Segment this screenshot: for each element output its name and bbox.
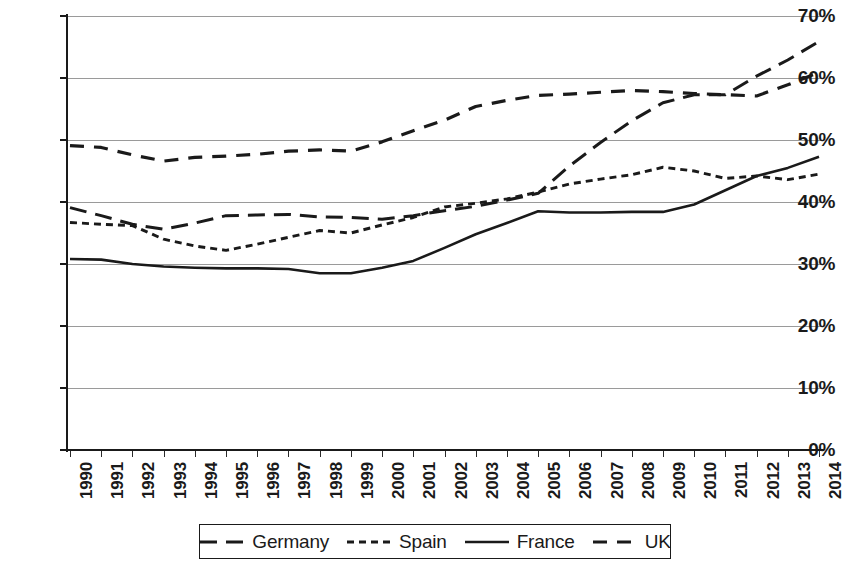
series-line-uk — [70, 72, 819, 161]
x-axis-tick-label: 1993 — [171, 462, 191, 499]
x-axis-tick-mark — [413, 451, 414, 457]
x-axis-tick-label: 2012 — [764, 462, 784, 499]
x-axis-tick-label: 2002 — [452, 462, 472, 499]
y-axis-tick-mark — [60, 325, 67, 327]
legend-label: Spain — [399, 531, 447, 553]
x-axis-tick-mark — [757, 451, 758, 457]
legend-swatch-icon — [464, 536, 510, 548]
y-axis-tick-mark — [60, 139, 67, 141]
x-axis-tick-label: 2009 — [670, 462, 690, 499]
x-axis-tick-label: 2010 — [701, 462, 721, 499]
x-axis-tick-mark — [663, 451, 664, 457]
x-axis-tick-mark — [632, 451, 633, 457]
x-axis-tick-mark — [320, 451, 321, 457]
legend-item-france[interactable]: France — [464, 531, 575, 553]
x-axis-tick-label: 2011 — [732, 462, 752, 498]
series-line-spain — [70, 167, 819, 250]
x-axis-tick-mark — [445, 451, 446, 457]
y-axis-tick-mark — [60, 387, 67, 389]
x-axis-tick-mark — [601, 451, 602, 457]
legend-item-germany[interactable]: Germany — [199, 531, 329, 553]
series-lines — [66, 16, 823, 450]
y-axis-tick-mark — [60, 77, 67, 79]
y-axis-tick-mark — [60, 201, 67, 203]
y-axis-tick-label: 50% — [777, 129, 835, 151]
x-axis-tick-label: 1997 — [295, 462, 315, 499]
x-axis-tick-label: 1996 — [264, 462, 284, 499]
legend-label: France — [517, 531, 575, 553]
legend-item-uk[interactable]: UK — [592, 531, 671, 553]
x-axis-tick-mark — [538, 451, 539, 457]
y-axis-tick-label: 60% — [777, 67, 835, 89]
x-axis-tick-mark — [507, 451, 508, 457]
x-axis-tick-label: 1991 — [108, 462, 128, 499]
y-axis-tick-label: 20% — [777, 315, 835, 337]
legend-item-spain[interactable]: Spain — [346, 531, 447, 553]
legend-swatch-icon — [199, 536, 245, 548]
legend-swatch-icon — [592, 536, 638, 548]
x-axis-tick-label: 1995 — [233, 462, 253, 499]
x-axis-tick-label: 2005 — [545, 462, 565, 499]
x-axis-tick-mark — [351, 451, 352, 457]
y-axis-tick-label: 70% — [777, 5, 835, 27]
x-axis-tick-label: 1990 — [77, 462, 97, 499]
legend-swatch-icon — [346, 536, 392, 548]
x-axis-tick-label: 2014 — [826, 462, 846, 499]
x-axis-tick-label: 2006 — [576, 462, 596, 499]
x-axis-tick-label: 2001 — [420, 462, 440, 499]
x-axis-tick-label: 2000 — [389, 462, 409, 499]
x-axis-tick-label: 1999 — [358, 462, 378, 499]
x-axis-tick-mark — [788, 451, 789, 457]
x-axis-tick-label: 2008 — [639, 462, 659, 499]
x-axis-tick-mark — [226, 451, 227, 457]
x-axis-tick-mark — [725, 451, 726, 457]
x-axis-tick-label: 1998 — [327, 462, 347, 499]
series-line-germany — [70, 41, 819, 229]
x-axis-tick-mark — [476, 451, 477, 457]
y-axis-tick-label: 30% — [777, 253, 835, 275]
x-axis-tick-mark — [164, 451, 165, 457]
x-axis-tick-label: 2007 — [608, 462, 628, 499]
x-axis-tick-label: 1994 — [202, 462, 222, 499]
x-axis-tick-mark — [569, 451, 570, 457]
legend-label: Germany — [252, 531, 329, 553]
y-axis-tick-label: 0% — [777, 439, 835, 461]
x-axis-tick-mark — [132, 451, 133, 457]
x-axis-tick-label: 2013 — [795, 462, 815, 499]
y-axis-tick-mark — [60, 263, 67, 265]
x-axis-tick-mark — [288, 451, 289, 457]
x-axis-tick-mark — [382, 451, 383, 457]
y-axis-tick-mark — [60, 15, 67, 17]
x-axis-tick-mark — [694, 451, 695, 457]
legend-label: UK — [645, 531, 671, 553]
y-axis-tick-label: 10% — [777, 377, 835, 399]
x-axis-tick-label: 1992 — [139, 462, 159, 499]
x-axis-tick-mark — [101, 451, 102, 457]
x-axis-tick-mark — [195, 451, 196, 457]
x-axis-tick-mark — [257, 451, 258, 457]
x-axis-tick-mark — [70, 451, 71, 457]
x-axis-tick-mark — [819, 451, 820, 457]
chart-legend: GermanySpainFranceUK — [199, 524, 671, 559]
x-axis-tick-label: 2003 — [483, 462, 503, 499]
x-axis-tick-label: 2004 — [514, 462, 534, 499]
y-axis-tick-label: 40% — [777, 191, 835, 213]
y-axis-tick-mark — [60, 449, 67, 451]
plot-area — [66, 16, 823, 450]
